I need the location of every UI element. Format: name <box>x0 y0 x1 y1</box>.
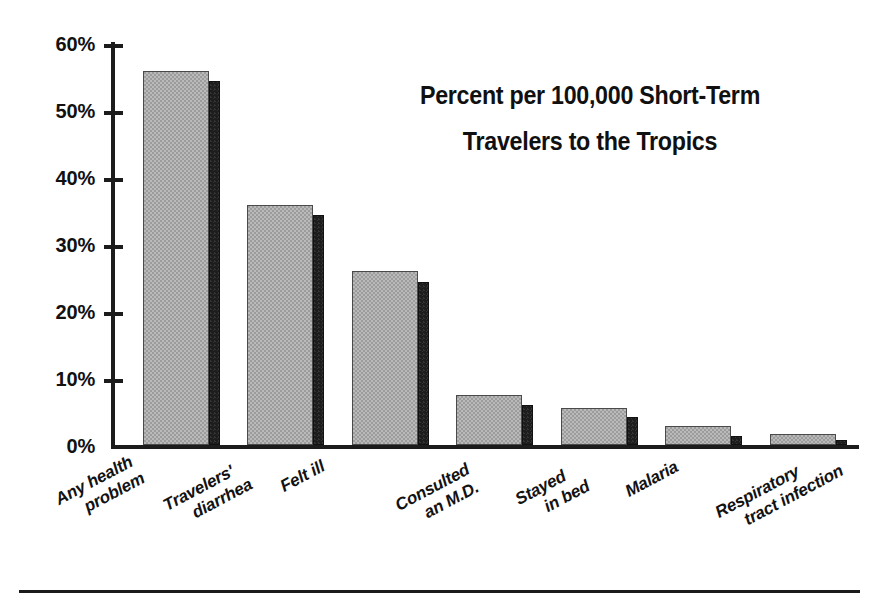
bar-gray-4 <box>561 408 627 445</box>
bar-dark-6 <box>836 440 847 445</box>
bottom-divider <box>19 590 860 593</box>
bar-dark-5 <box>731 436 742 445</box>
y-tick-label: 50% <box>23 101 95 121</box>
x-axis-category-label-line: Malaria <box>622 457 682 502</box>
bar-gray-2 <box>352 271 418 445</box>
x-axis-category-label-0: Any healthproblem <box>52 451 148 527</box>
chart-title: Percent per 100,000 Short-Term Travelers… <box>348 72 832 164</box>
bar-gray-5 <box>665 426 731 445</box>
y-tick-mark <box>104 245 123 249</box>
bar-dark-2 <box>418 282 429 445</box>
bar-dark-4 <box>627 417 638 445</box>
y-tick-label: 60% <box>23 34 95 54</box>
x-axis-category-label-line: Felt ill <box>277 457 328 497</box>
x-axis-line <box>111 445 859 449</box>
x-axis-category-label-5: Malaria <box>622 457 682 502</box>
bar-chart: Percent per 100,000 Short-Term Travelers… <box>0 0 882 612</box>
bar-gray-3 <box>456 395 522 445</box>
y-tick-mark <box>104 312 123 316</box>
y-tick-label: 10% <box>23 369 95 389</box>
x-axis-category-label-2: Felt ill <box>277 457 328 497</box>
bar-dark-0 <box>209 81 220 445</box>
bar-gray-1 <box>247 205 313 445</box>
bar-dark-3 <box>522 405 533 445</box>
y-tick-label: 40% <box>23 168 95 188</box>
y-tick-mark <box>104 379 123 383</box>
x-axis-category-label-3: Consultedan M.D. <box>392 460 483 533</box>
x-axis-category-label-4: Stayedin bed <box>512 459 593 528</box>
x-axis-category-label-6: Respiratorytract infection <box>712 443 847 540</box>
bar-dark-1 <box>313 215 324 445</box>
bar-gray-0 <box>143 71 209 445</box>
y-tick-label: 30% <box>23 235 95 255</box>
chart-title-line-1: Percent per 100,000 Short-Term <box>348 72 832 118</box>
y-tick-mark <box>104 178 123 182</box>
y-tick-label: 20% <box>23 302 95 322</box>
y-tick-mark <box>104 44 123 48</box>
chart-title-line-2: Travelers to the Tropics <box>348 118 832 164</box>
x-axis-category-label-1: Travelers'diarrhea <box>160 457 256 533</box>
y-tick-label: 0% <box>23 436 95 456</box>
y-tick-mark <box>104 111 123 115</box>
